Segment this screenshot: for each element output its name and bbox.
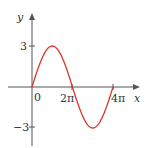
x-tick-label-2pi: 2π bbox=[60, 92, 74, 105]
y-tick-label-3: 3 bbox=[20, 40, 27, 53]
origin-label: 0 bbox=[34, 91, 41, 104]
y-tick-label-neg3: −3 bbox=[13, 121, 29, 134]
x-tick-label-4pi: 4π bbox=[111, 92, 125, 105]
y-axis-label: y bbox=[16, 11, 24, 24]
y-axis-arrow-icon bbox=[29, 13, 35, 20]
sine-chart: y x 0 2π 4π 3 −3 bbox=[0, 0, 147, 148]
x-axis-arrow-icon bbox=[133, 84, 140, 90]
x-axis-label: x bbox=[134, 92, 141, 105]
